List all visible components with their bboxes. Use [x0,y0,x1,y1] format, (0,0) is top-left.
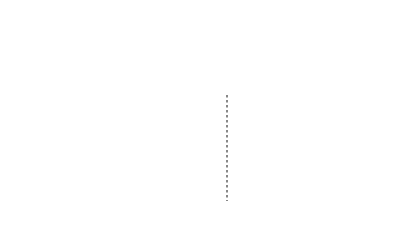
figure-graphics [0,0,397,240]
figure-panel-b [0,0,397,240]
